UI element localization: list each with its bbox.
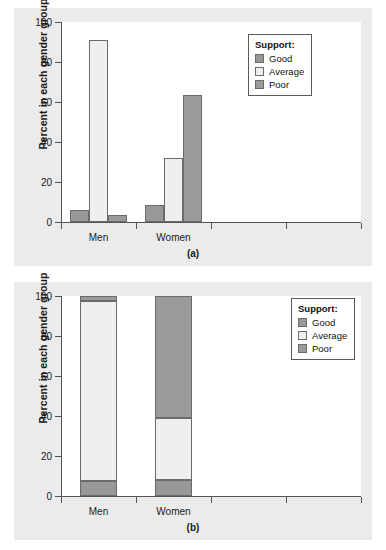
y-tick-label: 60 xyxy=(20,371,52,382)
legend-swatch-poor-icon xyxy=(255,80,264,89)
y-tick-label: 100 xyxy=(20,291,52,302)
bar-poor-men xyxy=(80,296,117,301)
y-tick-mark xyxy=(55,416,61,417)
x-tick-mark xyxy=(136,223,137,229)
y-tick-label: 40 xyxy=(20,411,52,422)
x-tick-mark xyxy=(61,497,62,503)
legend-title-b: Support: xyxy=(298,303,347,314)
legend-label-good: Good xyxy=(269,53,292,64)
legend-label-average: Average xyxy=(269,66,304,77)
legend-swatch-good-icon xyxy=(255,54,264,63)
bar-average-men xyxy=(80,301,117,481)
x-tick-mark xyxy=(211,223,212,229)
y-axis-line-b xyxy=(61,296,62,497)
legend-label-average: Average xyxy=(312,330,347,341)
legend-item-poor[interactable]: Poor xyxy=(255,79,304,90)
bar-poor-women xyxy=(183,95,202,222)
bar-average-women xyxy=(155,418,192,480)
bar-poor-women xyxy=(155,296,192,418)
bar-good-men xyxy=(70,210,89,222)
bar-average-women xyxy=(164,158,183,222)
y-tick-label: 20 xyxy=(20,451,52,462)
y-axis-line-a xyxy=(61,22,62,223)
y-tick-label: 0 xyxy=(20,217,52,228)
x-tick-mark xyxy=(361,223,362,229)
y-tick-label: 80 xyxy=(20,331,52,342)
x-tick-mark xyxy=(61,223,62,229)
y-tick-mark xyxy=(55,376,61,377)
y-tick-mark xyxy=(55,102,61,103)
legend-label-good: Good xyxy=(312,317,335,328)
y-tick-mark xyxy=(55,336,61,337)
x-category-label: Women xyxy=(156,506,190,517)
bar-good-women xyxy=(155,480,192,496)
bar-poor-men xyxy=(108,215,127,222)
legend-item-average[interactable]: Average xyxy=(298,330,347,341)
y-tick-mark xyxy=(55,182,61,183)
bar-good-men xyxy=(80,481,117,496)
y-tick-mark xyxy=(55,22,61,23)
figure-root: Percent in each gender group 02040608010… xyxy=(0,0,386,550)
y-tick-label: 80 xyxy=(20,57,52,68)
y-tick-label: 40 xyxy=(20,137,52,148)
legend-item-good[interactable]: Good xyxy=(255,53,304,64)
x-tick-mark xyxy=(136,497,137,503)
x-tick-mark xyxy=(286,223,287,229)
y-tick-label: 20 xyxy=(20,177,52,188)
y-tick-mark xyxy=(55,296,61,297)
panel-caption-a: (a) xyxy=(14,248,372,259)
x-category-label: Women xyxy=(156,232,190,243)
bar-average-men xyxy=(89,40,108,222)
y-tick-mark xyxy=(55,62,61,63)
legend-swatch-poor-icon xyxy=(298,344,307,353)
chart-panel-a: Percent in each gender group 02040608010… xyxy=(14,8,372,266)
bar-good-women xyxy=(145,205,164,222)
y-tick-mark xyxy=(55,142,61,143)
legend-swatch-average-icon xyxy=(298,331,307,340)
x-category-label: Men xyxy=(89,506,108,517)
x-category-label: Men xyxy=(89,232,108,243)
legend-swatch-good-icon xyxy=(298,318,307,327)
y-tick-mark xyxy=(55,456,61,457)
legend-item-good[interactable]: Good xyxy=(298,317,347,328)
legend-item-average[interactable]: Average xyxy=(255,66,304,77)
x-tick-mark xyxy=(286,497,287,503)
y-tick-label: 60 xyxy=(20,97,52,108)
y-tick-label: 0 xyxy=(20,491,52,502)
x-tick-mark xyxy=(211,497,212,503)
legend-swatch-average-icon xyxy=(255,67,264,76)
chart-panel-b: Percent in each gender group 02040608010… xyxy=(14,282,372,540)
legend-a: Support: Good Average Poor xyxy=(248,34,312,96)
legend-item-poor[interactable]: Poor xyxy=(298,343,347,354)
x-tick-mark xyxy=(361,497,362,503)
legend-label-poor: Poor xyxy=(269,79,289,90)
legend-label-poor: Poor xyxy=(312,343,332,354)
legend-title-a: Support: xyxy=(255,39,304,50)
panel-caption-b: (b) xyxy=(14,522,372,533)
legend-b: Support: Good Average Poor xyxy=(291,298,355,360)
y-tick-label: 100 xyxy=(20,17,52,28)
